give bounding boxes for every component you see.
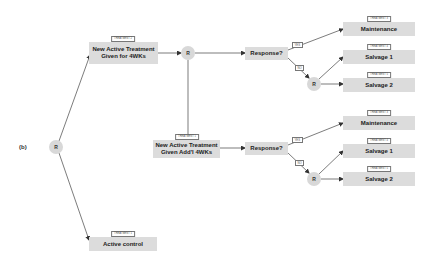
randomize-node-main: R: [49, 140, 63, 154]
panel-label: (b): [19, 144, 27, 150]
randomize-node-middle-sub: R: [307, 172, 321, 186]
salvage-1-box-middle: Salvage 1: [343, 144, 415, 158]
new-active-treatment-4wks-box: New Active Treatment Given for 4WKs: [89, 42, 158, 64]
salvage-2-box-top: Salvage 2: [343, 78, 415, 92]
salvage-1-box-top: Salvage 1: [343, 50, 415, 64]
maintenance-box-middle: Maintenance: [343, 116, 415, 130]
connector-lines: [0, 0, 435, 261]
maintenance-box-top: Maintenance: [343, 22, 415, 36]
response-box-middle: Response?: [245, 142, 288, 155]
no-label-middle: NO: [295, 160, 304, 166]
yes-label-top: YES: [292, 42, 303, 48]
yes-label-middle: YES: [292, 137, 303, 143]
box-line-2: Given Add'l 4WKs: [161, 149, 212, 156]
randomize-node-top: R: [181, 46, 195, 60]
randomize-node-top-sub: R: [307, 77, 321, 91]
salvage-2-box-middle: Salvage 2: [343, 172, 415, 186]
no-label-top: NO: [295, 65, 304, 71]
active-control-box: Active control: [89, 237, 157, 251]
new-active-treatment-addl-box: New Active Treatment Given Add'l 4WKs: [153, 140, 220, 158]
box-line-2: Given for 4WKs: [101, 53, 146, 60]
response-box-top: Response?: [245, 47, 288, 60]
box-line-1: New Active Treatment: [155, 142, 217, 149]
box-line-1: New Active Treatment: [92, 46, 154, 53]
